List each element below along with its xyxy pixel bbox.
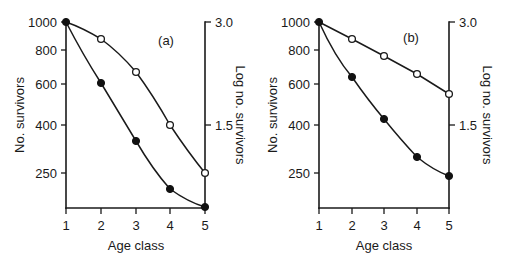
panel-a-y2label: Log no. survivors <box>233 66 248 165</box>
panel-a-plot: 1000 800 600 400 250 1 2 3 4 5 3.0 1.5 A… <box>0 0 253 258</box>
panel-b-ytick-400: 400 <box>288 118 310 133</box>
panel-b-ytick-600: 600 <box>288 77 310 92</box>
survivorship-figure: 1000 800 600 400 250 1 2 3 4 5 3.0 1.5 A… <box>0 0 506 258</box>
panel-a-xtick-1: 1 <box>62 218 69 233</box>
panel-b-ylabel: No. survivors <box>265 77 280 153</box>
panel-a-xtick-5: 5 <box>201 218 208 233</box>
panel-b-x-ticks <box>319 208 449 214</box>
panel-b-y2label: Log no. survivors <box>480 66 495 165</box>
panel-b-tag: (b) <box>403 30 419 45</box>
panel-b-filled-markers <box>315 18 452 179</box>
panel-b-ytick-1000: 1000 <box>281 15 310 30</box>
panel-b: 1000 800 600 400 250 1 2 3 4 5 3.0 1.5 A… <box>253 0 506 258</box>
panel-b-xtick-1: 1 <box>315 218 322 233</box>
panel-b-ytick-250: 250 <box>288 166 310 181</box>
panel-b-y2tick-1-5: 1.5 <box>459 118 477 133</box>
panel-a-ytick-250: 250 <box>35 166 57 181</box>
panel-b-y2-ticks <box>449 22 455 125</box>
panel-b-y2tick-3: 3.0 <box>459 15 477 30</box>
panel-a-xtick-4: 4 <box>166 218 173 233</box>
panel-a-ytick-800: 800 <box>35 43 57 58</box>
panel-a-open-curve <box>66 22 205 173</box>
panel-a-tag: (a) <box>158 33 174 48</box>
panel-b-xtick-2: 2 <box>348 218 355 233</box>
panel-b-xtick-4: 4 <box>413 218 420 233</box>
panel-a-y2-ticks <box>205 22 211 125</box>
panel-b-xtick-5: 5 <box>445 218 452 233</box>
panel-a-ylabel: No. survivors <box>12 77 27 153</box>
panel-a-ytick-400: 400 <box>35 118 57 133</box>
panel-a-y2tick-1-5: 1.5 <box>215 118 233 133</box>
panel-a-filled-curve <box>66 22 205 207</box>
panel-a-ytick-1000: 1000 <box>28 15 57 30</box>
panel-a-x-ticks <box>66 208 205 214</box>
panel-b-xtick-3: 3 <box>380 218 387 233</box>
panel-a-filled-markers <box>62 18 208 210</box>
panel-b-plot: 1000 800 600 400 250 1 2 3 4 5 3.0 1.5 A… <box>253 0 506 258</box>
panel-a-xtick-3: 3 <box>132 218 139 233</box>
panel-a: 1000 800 600 400 250 1 2 3 4 5 3.0 1.5 A… <box>0 0 253 258</box>
panel-a-xtick-2: 2 <box>97 218 104 233</box>
panel-b-xlabel: Age class <box>356 238 413 253</box>
panel-b-ytick-800: 800 <box>288 43 310 58</box>
panel-a-axes <box>66 22 205 208</box>
panel-a-ytick-600: 600 <box>35 77 57 92</box>
panel-a-xlabel: Age class <box>108 238 165 253</box>
panel-a-y2tick-3: 3.0 <box>215 15 233 30</box>
panel-b-filled-curve <box>319 22 449 176</box>
